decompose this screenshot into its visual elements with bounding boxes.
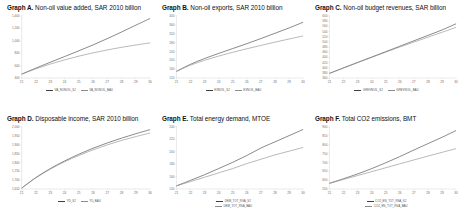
legend-label: YD_S2 [67, 199, 76, 203]
y-axis-tick-label: 900 [322, 125, 327, 129]
panel-label: Graph C. [315, 4, 342, 11]
panel-title: Graph F. Total CO2 emissions, BMT [315, 115, 459, 123]
legend-item[interactable]: CO2_EN_TOT_RSA_S2 [367, 199, 407, 203]
legend-item[interactable]: EXNOIL_BAU [235, 88, 261, 92]
y-axis-tick-label: 1,200 [12, 26, 20, 30]
series-line-exnoil_s2 [176, 22, 303, 71]
panel-title-text: Non-oil exports, SAR 2010 billion [190, 4, 282, 11]
x-axis-tick-label: 23 [356, 191, 360, 195]
chart-legend: YD_S2YD_BAU [6, 199, 153, 203]
y-axis-tick-label: 420 [322, 61, 327, 65]
y-axis-tick-label: 240 [169, 125, 174, 129]
y-axis-tick-label: 650 [322, 169, 327, 173]
legend-item[interactable]: EXNOIL_S2 [206, 88, 230, 92]
x-axis-tick-label: 22 [342, 191, 346, 195]
x-axis-tick-label: 26 [91, 80, 95, 84]
x-axis-tick-label: 30 [148, 191, 152, 195]
y-axis-tick-label: 850 [322, 134, 327, 138]
x-axis-tick-label: 22 [189, 80, 193, 84]
x-axis-tick-label: 30 [454, 80, 458, 84]
y-axis-tick-label: 460 [322, 50, 327, 54]
legend-item[interactable]: GREVNOIL_S2 [354, 88, 382, 92]
plot-area: 24022020018016014021222324252627282930 [161, 124, 306, 198]
plot-area: 6005805605405205004804604404204003803602… [314, 13, 459, 87]
legend-item[interactable]: YD_S2 [58, 199, 76, 203]
panel-title: Graph A. Non-oil value added, SAR 2010 b… [7, 4, 153, 12]
y-axis-tick-label: 1,400 [12, 14, 20, 18]
series-line-va_nonoil_s2 [22, 18, 150, 74]
y-axis-tick-label: 1,700 [12, 178, 20, 182]
x-axis-tick-label: 24 [63, 80, 67, 84]
legend-item[interactable]: GREVNOIL_BAU [388, 88, 419, 92]
legend-item[interactable]: VA_NONOIL_S2 [46, 88, 76, 92]
y-axis-tick-label: 2,000 [12, 125, 20, 129]
legend-swatch-icon [215, 206, 222, 207]
x-axis-tick-label: 30 [301, 80, 305, 84]
x-axis-tick-label: 25 [384, 80, 388, 84]
legend-swatch-icon [354, 90, 361, 91]
legend-swatch-icon [367, 201, 374, 202]
series-line-dem_tot_rsa_bau [176, 147, 303, 185]
panel-label: Graph E. [162, 115, 188, 122]
series-line-yd_s2 [22, 130, 150, 188]
panel-title-text: Total CO2 emissions, BMT [342, 115, 416, 122]
y-axis-tick-label: 500 [322, 40, 327, 44]
x-axis-tick-label: 21 [20, 80, 24, 84]
x-axis-tick-label: 22 [342, 80, 346, 84]
legend-label: CO2_EN_TOT_RSA_S2 [375, 199, 406, 203]
panel-title-text: Total energy demand, MTOE [190, 115, 270, 122]
x-axis-tick-label: 22 [34, 80, 38, 84]
y-axis-tick-label: 400 [169, 14, 174, 18]
legend-label: DEM_TOT_RSA_S2 [225, 199, 251, 203]
legend-label: YD_BAU [89, 199, 100, 203]
x-axis-tick-label: 28 [120, 80, 124, 84]
x-axis-tick-label: 29 [134, 80, 138, 84]
x-axis-tick-label: 21 [328, 191, 332, 195]
chart-panel-graph-e: Graph E. Total energy demand, MTOE240220… [155, 111, 308, 223]
legend-item[interactable]: DEM_TOT_RSA_S2 [216, 199, 251, 203]
chart-legend: DEM_TOT_RSA_S2DEM_TOT_RSA_BAU [161, 199, 306, 208]
x-axis-tick-label: 23 [48, 80, 52, 84]
x-axis-tick-label: 28 [273, 80, 277, 84]
legend-label: EXNOIL_S2 [214, 88, 230, 92]
chart-panel-graph-c: Graph C. Non-oil budget revenues, SAR bi… [308, 0, 461, 111]
chart-legend: EXNOIL_S2EXNOIL_BAU [161, 88, 306, 92]
x-axis-tick-label: 29 [287, 80, 291, 84]
panel-title: Graph C. Non-oil budget revenues, SAR bi… [315, 4, 459, 12]
legend-swatch-icon [81, 90, 88, 91]
x-axis-tick-label: 28 [426, 191, 430, 195]
legend-item[interactable]: VA_NONOIL_BAU [81, 88, 113, 92]
x-axis-tick-label: 25 [231, 191, 235, 195]
x-axis-tick-label: 26 [245, 80, 249, 84]
x-axis-tick-label: 27 [412, 191, 416, 195]
legend-item[interactable]: DEM_TOT_RSA_BAU [215, 204, 252, 208]
y-axis-tick-label: 320 [169, 32, 174, 36]
x-axis-tick-label: 24 [63, 191, 67, 195]
series-line-exnoil_bau [176, 36, 303, 71]
legend-swatch-icon [235, 90, 242, 91]
y-axis-tick-label: 200 [169, 58, 174, 62]
x-axis-tick-label: 30 [301, 191, 305, 195]
y-axis-tick-label: 800 [322, 143, 327, 147]
legend-item[interactable]: YD_BAU [81, 199, 101, 203]
y-axis-tick-label: 1,950 [12, 134, 20, 138]
chart-panel-graph-a: Graph A. Non-oil value added, SAR 2010 b… [0, 0, 155, 111]
x-axis-tick-label: 29 [287, 191, 291, 195]
legend-item[interactable]: CO2_EN_TOT_RSA_BAU [365, 204, 407, 208]
y-axis-tick-label: 240 [169, 49, 174, 53]
legend-swatch-icon [365, 206, 372, 207]
legend-label: DEM_TOT_RSA_BAU [223, 204, 252, 208]
legend-label: GREVNOIL_S2 [363, 88, 383, 92]
chart-legend: VA_NONOIL_S2VA_NONOIL_BAU [6, 88, 153, 92]
x-axis-tick-label: 27 [412, 80, 416, 84]
panel-label: Graph F. [315, 115, 340, 122]
y-axis-tick-label: 520 [322, 35, 327, 39]
x-axis-tick-label: 27 [259, 191, 263, 195]
y-axis-tick-label: 600 [322, 178, 327, 182]
legend-label: VA_NONOIL_BAU [89, 88, 113, 92]
x-axis-tick-label: 23 [203, 191, 207, 195]
legend-swatch-icon [81, 201, 88, 202]
x-axis-tick-label: 24 [370, 191, 374, 195]
x-axis-tick-label: 26 [398, 80, 402, 84]
x-axis-tick-label: 21 [175, 191, 179, 195]
